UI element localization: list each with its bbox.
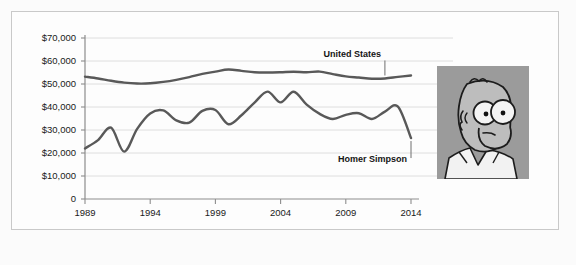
x-tick-label: 1999: [205, 207, 226, 218]
y-tick-label: $30,000: [42, 124, 76, 135]
homer-mouth: [479, 127, 511, 149]
y-tick-label: $50,000: [42, 78, 76, 89]
y-tick-label: $60,000: [42, 55, 76, 66]
series-line-homer-simpson: [85, 92, 411, 152]
y-tick-label: $10,000: [42, 170, 76, 181]
series-line-united-states: [85, 70, 411, 84]
y-tick-label: $40,000: [42, 101, 76, 112]
y-tick-label: $20,000: [42, 147, 76, 158]
x-tick-label: 2004: [270, 207, 291, 218]
x-axis-ticks-group: 198919941999200420092014: [74, 199, 421, 218]
series-label-united-states: United States: [323, 49, 381, 59]
x-tick-label: 1994: [140, 207, 161, 218]
series-label-homer-simpson: Homer Simpson: [338, 154, 407, 164]
x-tick-label: 1989: [74, 207, 95, 218]
y-axis-ticks-group: $70,000$60,000$50,000$40,000$30,000$20,0…: [42, 32, 85, 204]
screenshot-page: $70,000$60,000$50,000$40,000$30,000$20,0…: [0, 0, 576, 265]
homer-simpson-illustration: [437, 66, 529, 179]
homer-simpson-portrait: [437, 66, 529, 179]
x-tick-label: 2014: [400, 207, 421, 218]
y-tick-label: $70,000: [42, 32, 76, 43]
homer-eyes: [474, 100, 516, 125]
x-tick-label: 2009: [335, 207, 356, 218]
y-tick-label: 0: [71, 193, 76, 204]
series-lines-group: [85, 70, 411, 152]
